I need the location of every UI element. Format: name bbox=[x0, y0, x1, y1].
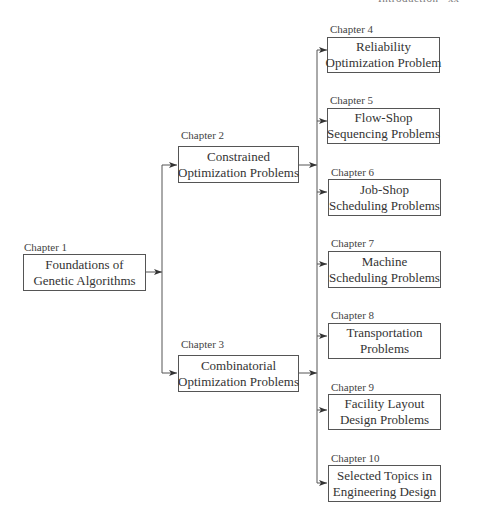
chapter-4-label: Chapter 4 bbox=[330, 23, 373, 35]
chapter-8-label: Chapter 8 bbox=[331, 309, 374, 321]
chapter-10-title-line2: Engineering Design bbox=[333, 484, 437, 500]
chapter-5-box: Flow-Shop Sequencing Problems bbox=[327, 108, 440, 144]
chapter-9-label: Chapter 9 bbox=[331, 381, 374, 393]
chapter-10-title-line1: Selected Topics in bbox=[337, 468, 432, 484]
chapter-10-label: Chapter 10 bbox=[331, 452, 380, 464]
chapter-1-title-line1: Foundations of bbox=[45, 257, 123, 273]
chapter-3-title-line1: Combinatorial bbox=[201, 358, 276, 374]
chapter-3-title-line2: Optimization Problems bbox=[178, 374, 299, 390]
chapter-6-label: Chapter 6 bbox=[331, 166, 374, 178]
chapter-7-box: Machine Scheduling Problems bbox=[328, 251, 441, 288]
chapter-6-box: Job-Shop Scheduling Problems bbox=[328, 179, 441, 216]
chapter-8-box: Transportation Problems bbox=[328, 323, 441, 359]
chapter-7-title-line1: Machine bbox=[362, 254, 407, 270]
chapter-1-title-line2: Genetic Algorithms bbox=[33, 273, 135, 289]
chapter-2-title-line1: Constrained bbox=[207, 149, 270, 165]
chapter-1-box: Foundations of Genetic Algorithms bbox=[23, 254, 146, 291]
chapter-5-title-line2: Sequencing Problems bbox=[327, 126, 440, 142]
chapter-3-box: Combinatorial Optimization Problems bbox=[178, 355, 299, 392]
chapter-10-box: Selected Topics in Engineering Design bbox=[328, 465, 441, 502]
chapter-4-title-line1: Reliability bbox=[356, 39, 411, 55]
chapter-6-title-line1: Job-Shop bbox=[360, 182, 409, 198]
chapter-2-box: Constrained Optimization Problems bbox=[178, 146, 299, 183]
chapter-4-title-line2: Optimization Problem bbox=[326, 55, 442, 71]
chapter-2-label: Chapter 2 bbox=[181, 129, 224, 141]
chapter-9-box: Facility Layout Design Problems bbox=[328, 394, 441, 430]
chapter-7-label: Chapter 7 bbox=[331, 237, 374, 249]
chapter-8-title-line1: Transportation bbox=[346, 325, 422, 341]
chapter-5-label: Chapter 5 bbox=[330, 94, 373, 106]
chapter-2-title-line2: Optimization Problems bbox=[178, 165, 299, 181]
chapter-9-title-line2: Design Problems bbox=[340, 412, 429, 428]
chapter-1-label: Chapter 1 bbox=[24, 241, 67, 253]
chapter-8-title-line2: Problems bbox=[360, 341, 409, 357]
chapter-3-label: Chapter 3 bbox=[181, 338, 224, 350]
chapter-6-title-line2: Scheduling Problems bbox=[329, 198, 440, 214]
chapter-5-title-line1: Flow-Shop bbox=[355, 110, 413, 126]
chapter-7-title-line2: Scheduling Problems bbox=[329, 270, 440, 286]
chapter-4-box: Reliability Optimization Problem bbox=[327, 37, 440, 73]
chapter-9-title-line1: Facility Layout bbox=[345, 396, 425, 412]
